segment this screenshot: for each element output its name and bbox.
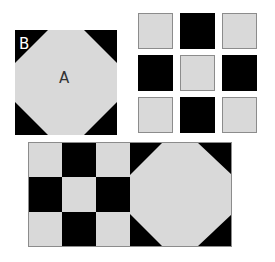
combined-block [28,142,232,247]
grid-cell [138,55,173,91]
ninepatch-grid [138,13,258,135]
grid-cell [222,13,257,49]
grid-cell [222,97,257,133]
grid-cell [180,97,215,133]
grid-cell [180,55,215,91]
grid-cell [180,13,215,49]
combined-shape [28,142,232,247]
label-a: A [59,71,69,86]
grid-cell [138,13,173,49]
grid-cell [138,97,173,133]
octagon-block: B A [15,30,117,135]
grid-cell [222,55,257,91]
label-b: B [19,37,29,52]
